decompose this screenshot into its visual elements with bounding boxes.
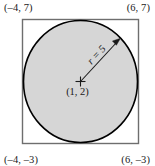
circle-in-square-figure: r = 5 (–4, 7) (6, 7) (–4, –3) (6, –3) (1… [0, 0, 155, 166]
corner-label-bottom-right: (6, –3) [121, 154, 150, 165]
center-coordinate-label: (1, 2) [0, 86, 155, 97]
corner-label-top-right: (6, 7) [127, 2, 150, 13]
diagram-svg: r = 5 [0, 0, 155, 166]
corner-label-top-left: (–4, 7) [4, 2, 33, 13]
corner-label-bottom-left: (–4, –3) [4, 154, 38, 165]
diagram-canvas: r = 5 [0, 0, 155, 166]
